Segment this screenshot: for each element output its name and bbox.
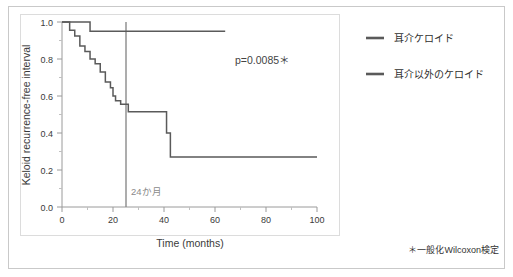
y-tick-label-3: 0.6 [40,92,53,102]
figure-container: 0.0 0.2 0.4 0.6 0.8 1.0 0 20 40 60 80 10… [0,0,513,277]
legend-label-1: 耳介以外のケロイド [394,69,484,80]
x-axis-title: Time (months) [156,237,223,249]
reference-line-label: 24か月 [131,186,162,197]
legend-label-0: 耳介ケロイド [394,33,454,44]
legend: 耳介ケロイド 耳介以外のケロイド [366,33,484,80]
kaplan-meier-chart: 0.0 0.2 0.4 0.6 0.8 1.0 0 20 40 60 80 10… [0,0,513,277]
y-tick-label-2: 0.4 [40,129,53,139]
x-tick-label-3: 60 [210,215,220,225]
x-tick-label-5: 100 [309,215,324,225]
y-tick-label-4: 0.8 [40,55,53,65]
x-tick-label-2: 40 [159,215,169,225]
x-tick-label-1: 20 [108,215,118,225]
series-line-auricular-keloid [62,22,225,31]
series-line-non-auricular-keloid [62,22,317,157]
p-value-annotation: p=0.0085＊ [235,54,289,66]
y-tick-label-1: 0.2 [40,166,53,176]
y-tick-label-0: 0.0 [40,203,53,213]
y-axis-title: Keloid recurrence-free interval [20,45,32,186]
footnote: ＊一般化Wilcoxon検定 [408,244,499,255]
x-tick-label-4: 80 [261,215,271,225]
y-tick-label-5: 1.0 [40,18,53,28]
x-tick-label-0: 0 [59,215,64,225]
